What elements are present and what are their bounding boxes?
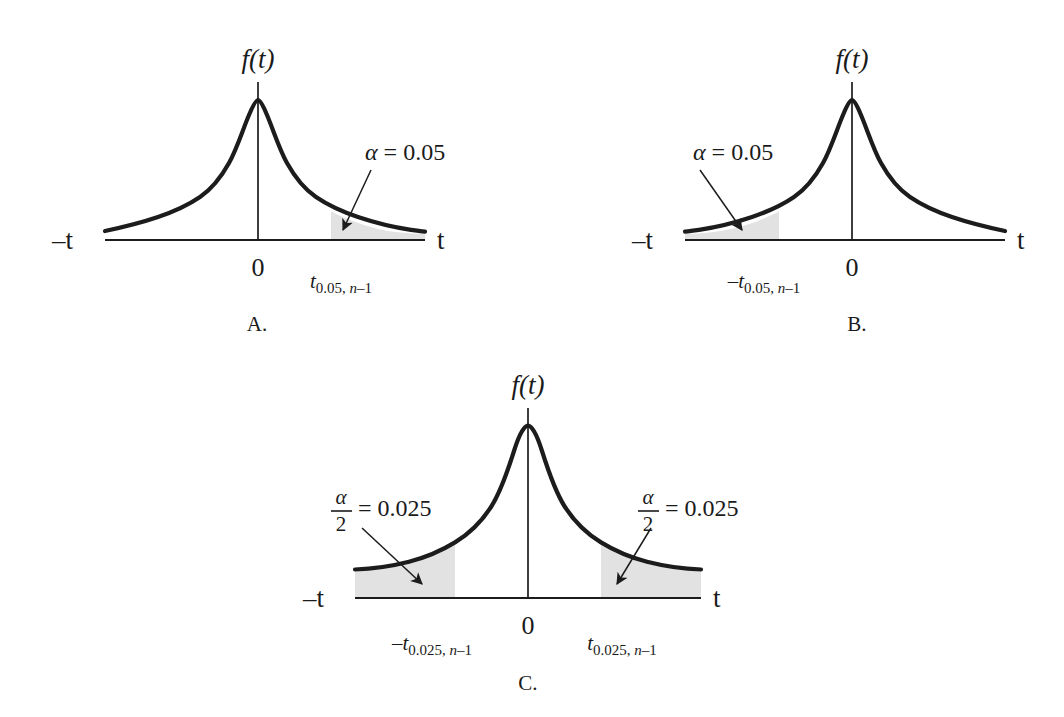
panel-b-label: B. [847,312,866,336]
panel-c-critical-value-label-left: –t0.025, n–1 [391,631,472,658]
panel-b-density-curve [685,100,1005,231]
panel-b-alpha-annotation: α = 0.05 [693,139,773,165]
panel-c-alpha-left-denominator: 2 [336,512,347,536]
panel-b-crit-sign: – [727,269,739,293]
panel-c-crit-left-sub-alpha: 0.025, [408,642,449,658]
figure-root: f(t) –t t 0 t0.05, n–1 α = 0.05 A. f(t) … [0,0,1064,717]
panel-c-shaded-region-right [601,545,701,598]
panel-a: f(t) –t t 0 t0.05, n–1 α = 0.05 A. [51,44,445,336]
panel-c-crit-right-sub-alpha: 0.025, [593,642,634,658]
panel-b-axis-right-label: t [1017,225,1025,255]
panel-b-axis-left-label: –t [631,225,654,255]
panel-a-alpha-symbol: α [365,139,378,165]
panel-c-axis-right-label: t [713,583,721,613]
panel-c-axis-left-label: –t [302,583,325,613]
panel-c-critical-value-label-right: t0.025, n–1 [587,631,657,658]
t-distribution-figure: f(t) –t t 0 t0.05, n–1 α = 0.05 A. f(t) … [0,0,1064,717]
panel-c-center-label: 0 [522,611,535,640]
panel-c-crit-right-sub-n: n [634,642,642,658]
panel-a-axis-left-label: –t [51,225,74,255]
panel-a-center-label: 0 [252,253,265,282]
panel-a-axis-right-label: t [437,225,445,255]
panel-c-crit-right-sub-tail: –1 [641,642,657,658]
panel-c-alpha-left-equals: = 0.025 [358,495,432,521]
panel-c-alpha-left-numerator: α [335,485,347,509]
panel-c-density-label: f(t) [512,370,545,400]
panel-c-alpha-right-equals: = 0.025 [665,495,739,521]
panel-b-density-label: f(t) [836,44,869,74]
panel-c-crit-left-sub-n: n [450,642,458,658]
panel-b-alpha-equals: = 0.05 [706,139,774,165]
panel-b-leader-line [700,170,742,230]
panel-c-label: C. [518,671,537,695]
panel-c-shaded-region-left [355,545,455,598]
panel-c-alpha-right-numerator: α [642,485,654,509]
panel-b-crit-sub-tail: –1 [784,280,800,296]
panel-b-alpha-symbol: α [693,139,706,165]
panel-a-alpha-annotation: α = 0.05 [365,139,445,165]
panel-c-crit-left-sub-tail: –1 [456,642,472,658]
panel-a-density-label: f(t) [242,44,275,74]
panel-a-alpha-equals: = 0.05 [378,139,446,165]
panel-a-critical-value-label: t0.05, n–1 [310,269,372,296]
panel-b-center-label: 0 [846,253,859,282]
panel-a-crit-sub-tail: –1 [356,280,372,296]
panel-b-crit-sub-alpha: 0.05, [744,280,778,296]
panel-a-crit-sub-n: n [350,280,358,296]
panel-b-crit-sub-n: n [778,280,786,296]
panel-b: f(t) –t t 0 –t0.05, n–1 α = 0.05 B. [631,44,1025,336]
panel-c: f(t) –t t 0 –t0.025, n–1 t0.025, n–1 α 2… [302,370,739,695]
panel-b-critical-value-label: –t0.05, n–1 [727,269,801,296]
panel-a-crit-sub-alpha: 0.05, [316,280,350,296]
panel-c-crit-left-sign: – [391,631,403,655]
panel-a-density-curve [105,100,425,231]
panel-a-label: A. [247,312,267,336]
